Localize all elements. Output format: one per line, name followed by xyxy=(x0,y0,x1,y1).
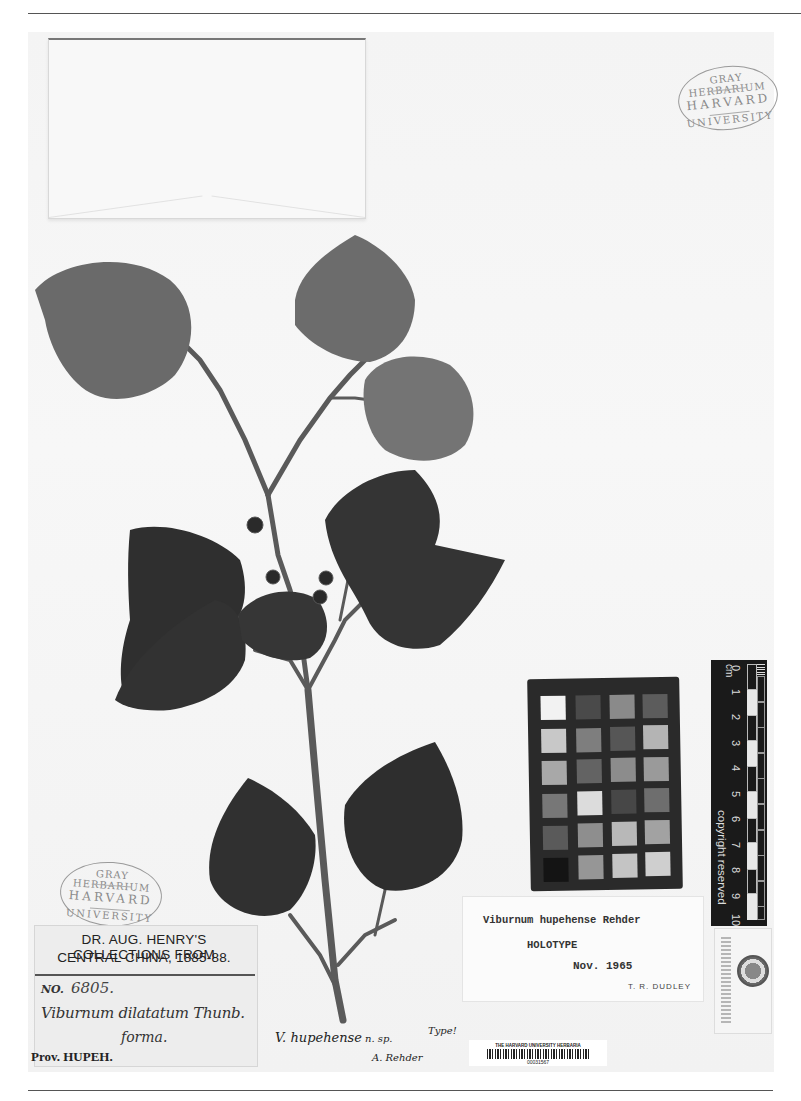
ruler-tick-9: 9 xyxy=(730,889,742,903)
barcode-icon xyxy=(487,1049,591,1059)
collection-label: DR. AUG. HENRY'S COLLECTIONS FROM CENTRA… xyxy=(34,925,258,1067)
handwritten-signature: A. Rehder xyxy=(372,1052,423,1063)
collection-number: 6805. xyxy=(71,979,114,997)
color-patch xyxy=(610,726,635,750)
color-patch xyxy=(644,788,669,812)
leaf xyxy=(325,470,505,649)
ruler-mm-ticks xyxy=(757,664,765,676)
color-patch xyxy=(644,757,669,781)
color-patch xyxy=(645,852,670,876)
color-patch xyxy=(612,853,637,877)
ruler-tick-4: 4 xyxy=(730,761,742,775)
leaf xyxy=(35,262,191,399)
handwritten-type-note: Type! xyxy=(428,1025,457,1036)
color-patch xyxy=(542,794,567,818)
ruler-cm-boxes xyxy=(757,676,765,920)
determined-taxon: Viburnum hupehense Rehder xyxy=(483,914,641,926)
ruler-tick-8: 8 xyxy=(730,863,742,877)
color-patch xyxy=(575,695,600,719)
harvard-seal-strip xyxy=(714,928,772,1034)
color-patch xyxy=(642,694,667,718)
fruit xyxy=(319,571,333,585)
collection-header-line2: CENTRAL CHINA, 1885-88. xyxy=(35,950,253,965)
color-patch xyxy=(577,759,602,783)
fruit xyxy=(313,590,327,604)
color-patch xyxy=(543,858,568,882)
ruler-tick-2: 2 xyxy=(730,710,742,724)
barcode-label: THE HARVARD UNIVERSITY HERBARIA 00031567 xyxy=(469,1040,607,1066)
leaf xyxy=(295,235,415,362)
color-patch xyxy=(609,694,634,718)
ruler-tick-7: 7 xyxy=(730,838,742,852)
type-status: HOLOTYPE xyxy=(527,939,577,951)
ruler-scale-bar xyxy=(747,664,757,920)
fruit xyxy=(266,570,280,584)
color-patch xyxy=(541,729,566,753)
label-divider xyxy=(35,974,255,976)
color-patch xyxy=(611,789,636,813)
harvard-seal-icon xyxy=(737,955,769,987)
color-patch xyxy=(645,820,670,844)
copyright-notice: copyright reserved xyxy=(716,810,728,905)
leaf xyxy=(209,778,315,916)
leaf xyxy=(344,742,462,891)
fruit xyxy=(247,517,263,533)
leaf xyxy=(238,592,327,661)
taxon-forma: forma. xyxy=(121,1029,167,1045)
leaf xyxy=(364,357,474,461)
ruler-tick-5: 5 xyxy=(730,787,742,801)
ruler-tick-3: 3 xyxy=(730,736,742,750)
ruler-tick-1: 1 xyxy=(730,685,742,699)
seal-fine-print xyxy=(721,937,731,1025)
ruler-tick-6: 6 xyxy=(730,812,742,826)
color-patch xyxy=(542,761,567,785)
color-patch xyxy=(540,696,565,720)
color-patch xyxy=(643,725,668,749)
barcode-institution: THE HARVARD UNIVERSITY HERBARIA xyxy=(469,1043,607,1048)
handwritten-name: V. hupehense xyxy=(275,1030,362,1045)
province: Prov. HUPEH. xyxy=(31,1049,113,1065)
cm-scale-ruler: cm 0 1 2 3 4 5 6 7 8 9 10 copyright rese… xyxy=(711,660,767,926)
bottom-rule xyxy=(28,1090,773,1091)
handwritten-qualifier: n. sp. xyxy=(365,1033,393,1044)
color-patch xyxy=(543,826,568,850)
color-calibration-chart xyxy=(527,677,683,892)
determination-label: Viburnum hupehense Rehder HOLOTYPE Nov. … xyxy=(462,896,704,1002)
color-patch xyxy=(578,823,603,847)
barcode-number: 00031567 xyxy=(469,1059,607,1065)
original-taxon-name: Viburnum dilatatum Thunb. xyxy=(41,1004,245,1022)
determiner: T. R. DUDLEY xyxy=(628,982,691,991)
ruler-tick-10: 10 xyxy=(730,913,742,927)
collection-number-label: NO. xyxy=(41,983,64,996)
ruler-tick-0: 0 xyxy=(730,661,742,675)
color-patch xyxy=(612,821,637,845)
color-patch xyxy=(576,728,601,752)
color-patch xyxy=(577,791,602,815)
color-patch xyxy=(578,855,603,879)
determination-date: Nov. 1965 xyxy=(573,960,632,972)
color-patch xyxy=(611,757,636,781)
